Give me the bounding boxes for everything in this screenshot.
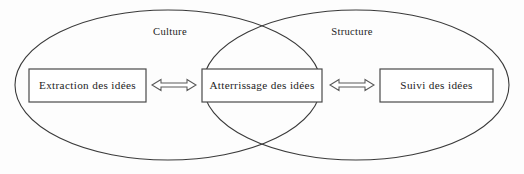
arrow-atterrissage-suivi bbox=[330, 80, 374, 91]
arrow-extraction-atterrissage bbox=[152, 80, 196, 91]
ellipse-label-culture: Culture bbox=[153, 26, 187, 37]
diagram-canvas: Culture Structure Extraction des idées A… bbox=[0, 0, 524, 174]
node-extraction: Extraction des idées bbox=[29, 69, 146, 102]
node-atterrissage: Atterrissage des idées bbox=[202, 69, 322, 102]
ellipse-label-structure: Structure bbox=[331, 26, 373, 37]
node-extraction-label: Extraction des idées bbox=[39, 79, 136, 91]
double-arrow-icon bbox=[330, 80, 374, 91]
double-arrow-icon bbox=[152, 80, 196, 91]
venn-diagram: Culture Structure Extraction des idées A… bbox=[0, 0, 524, 174]
node-suivi-label: Suivi des idées bbox=[400, 79, 472, 91]
node-suivi: Suivi des idées bbox=[380, 69, 493, 102]
node-atterrissage-label: Atterrissage des idées bbox=[209, 79, 314, 91]
